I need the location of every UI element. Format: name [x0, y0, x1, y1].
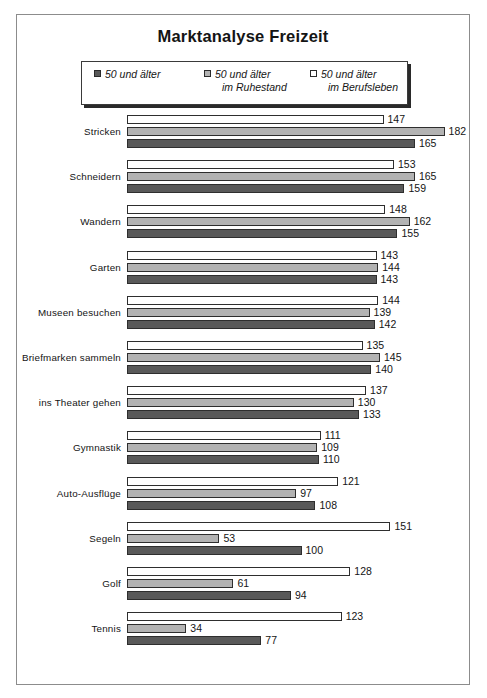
bar-group: Museen besuchen144139142	[17, 295, 469, 334]
bar-value-label: 137	[370, 384, 388, 396]
category-label: Wandern	[17, 216, 121, 227]
chart-legend: 50 und älter 50 und älter im Ruhestand 5…	[81, 61, 408, 105]
bar-value-label: 143	[381, 249, 399, 261]
bar-value-label: 111	[325, 429, 341, 441]
bar[interactable]	[127, 341, 363, 350]
bar-value-label: 143	[381, 273, 399, 285]
legend-label-0-line1: 50 und älter	[105, 68, 160, 80]
bar[interactable]	[127, 184, 404, 193]
chart-title: Marktanalyse Freizeit	[17, 27, 469, 46]
bar-value-label: 148	[389, 203, 407, 215]
legend-label-1-line1: 50 und älter	[215, 68, 270, 80]
bar[interactable]	[127, 546, 302, 555]
bar[interactable]	[127, 296, 378, 305]
bar[interactable]	[127, 636, 261, 645]
bar-value-label: 182	[449, 125, 467, 137]
bar[interactable]	[127, 489, 296, 498]
bar[interactable]	[127, 477, 338, 486]
bar[interactable]	[127, 115, 384, 124]
bar[interactable]	[127, 624, 186, 633]
legend-swatch-icon-0	[94, 70, 101, 77]
category-label: Schneidern	[17, 171, 121, 182]
legend-label-1-line2: im Ruhestand	[204, 81, 287, 94]
category-label: Tennis	[17, 623, 121, 634]
bar[interactable]	[127, 229, 397, 238]
bar[interactable]	[127, 308, 370, 317]
bar[interactable]	[127, 522, 390, 531]
bar-group: Schneidern153165159	[17, 159, 469, 198]
category-label: Gymnastik	[17, 442, 121, 453]
bar-value-label: 130	[358, 396, 376, 408]
bar[interactable]	[127, 139, 415, 148]
bar[interactable]	[127, 612, 342, 621]
bar[interactable]	[127, 217, 410, 226]
bar-value-label: 53	[223, 532, 235, 544]
legend-swatch-icon-1	[204, 70, 211, 77]
bar[interactable]	[127, 431, 321, 440]
legend-label-2-line2: im Berufsleben	[310, 81, 398, 94]
category-label: Golf	[17, 578, 121, 589]
bar-value-label: 110	[323, 453, 340, 465]
category-label: Museen besuchen	[17, 307, 121, 318]
bar[interactable]	[127, 251, 377, 260]
bar-value-label: 61	[237, 577, 249, 589]
bar[interactable]	[127, 263, 378, 272]
legend-entry-1: 50 und älter im Ruhestand	[204, 68, 287, 94]
bar-group: Stricken147182165	[17, 114, 469, 153]
bar-value-label: 121	[342, 475, 360, 487]
bar-group: Auto-Ausflüge12197108	[17, 476, 469, 515]
legend-label-2-line1: 50 und älter	[321, 68, 376, 80]
bar-value-label: 135	[367, 339, 385, 351]
bar[interactable]	[127, 353, 380, 362]
category-label: ins Theater gehen	[17, 397, 121, 408]
bar[interactable]	[127, 365, 371, 374]
bar[interactable]	[127, 455, 319, 464]
bar-value-label: 144	[382, 261, 400, 273]
bar[interactable]	[127, 443, 317, 452]
bar-group: Segeln15153100	[17, 521, 469, 560]
bar-group: Golf1286194	[17, 566, 469, 605]
bar-value-label: 151	[394, 520, 412, 532]
bar-value-label: 128	[354, 565, 372, 577]
bar-value-label: 165	[419, 170, 437, 182]
bar-value-label: 162	[414, 215, 432, 227]
bar-value-label: 123	[346, 610, 364, 622]
bar[interactable]	[127, 534, 219, 543]
bar[interactable]	[127, 205, 385, 214]
bar-value-label: 153	[398, 158, 416, 170]
bar-value-label: 145	[384, 351, 402, 363]
bar-value-label: 97	[300, 487, 312, 499]
bar[interactable]	[127, 567, 350, 576]
bar-value-label: 109	[321, 441, 339, 453]
bar[interactable]	[127, 591, 291, 600]
bar-value-label: 144	[382, 294, 400, 306]
bar-group: Garten143144143	[17, 250, 469, 289]
bar-value-label: 34	[190, 622, 202, 634]
legend-swatch-icon-2	[310, 70, 317, 77]
bar-value-label: 108	[319, 499, 337, 511]
bar-value-label: 142	[379, 318, 397, 330]
bar[interactable]	[127, 501, 315, 510]
bar-value-label: 155	[401, 227, 419, 239]
bar[interactable]	[127, 172, 415, 181]
bar-group: Tennis1233477	[17, 611, 469, 650]
category-label: Auto-Ausflüge	[17, 488, 121, 499]
category-label: Briefmarken sammeln	[17, 352, 121, 363]
bar-value-label: 165	[419, 137, 437, 149]
bar[interactable]	[127, 320, 375, 329]
bar[interactable]	[127, 579, 233, 588]
bar[interactable]	[127, 160, 394, 169]
bar-value-label: 100	[306, 544, 324, 556]
bar-value-label: 139	[374, 306, 392, 318]
bar-group: Wandern148162155	[17, 204, 469, 243]
bar-value-label: 77	[265, 634, 277, 646]
bar[interactable]	[127, 275, 377, 284]
bar[interactable]	[127, 410, 359, 419]
bar[interactable]	[127, 398, 354, 407]
bar[interactable]	[127, 127, 445, 136]
bar[interactable]	[127, 386, 366, 395]
plot-area: Stricken147182165Schneidern153165159Wand…	[17, 114, 469, 674]
bar-value-label: 140	[375, 363, 393, 375]
category-label: Stricken	[17, 126, 121, 137]
category-label: Garten	[17, 262, 121, 273]
